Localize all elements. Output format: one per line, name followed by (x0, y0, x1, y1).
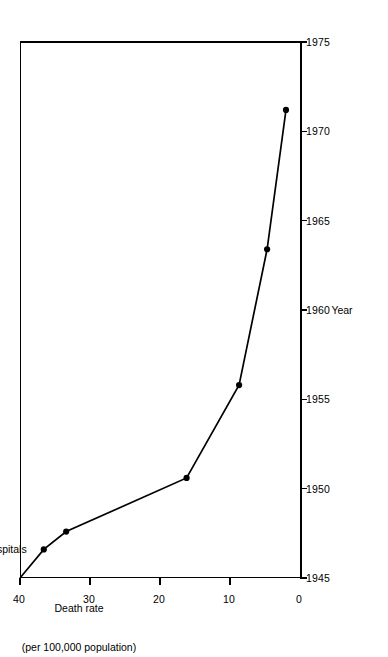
data-point-1 (41, 546, 47, 552)
data-point-5 (264, 246, 270, 252)
x-axis-title: Year (324, 304, 360, 316)
y-axis-title-line2: (per 100,000 population) (19, 641, 139, 654)
annotation-general-penicillin-streptomycin: General distribution of penicillin; stre… (0, 543, 27, 556)
y-axis-title: Death rate (per 100,000 population) (19, 576, 139, 657)
data-point-6 (283, 107, 289, 113)
data-point-2 (63, 528, 69, 534)
data-point-markers (41, 107, 289, 553)
data-point-3 (184, 475, 190, 481)
y-axis-title-line1: Death rate (19, 602, 139, 615)
data-point-4 (236, 382, 242, 388)
